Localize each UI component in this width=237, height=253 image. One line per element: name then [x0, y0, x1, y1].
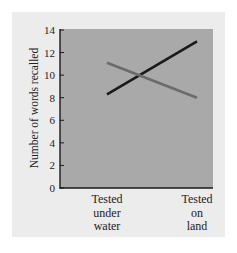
y-tick-label: 12: [44, 47, 55, 59]
x-category-label: Tested: [91, 192, 122, 206]
y-tick-label: 6: [50, 114, 56, 126]
plot-area: [60, 29, 213, 188]
x-category-label: land: [187, 219, 208, 233]
y-tick-label: 8: [50, 92, 56, 104]
x-category-label: on: [191, 206, 203, 220]
x-category-label: Tested: [181, 192, 212, 206]
y-tick-label: 4: [50, 137, 56, 149]
line-chart: 02468101214 Number of words recalled Tes…: [0, 0, 237, 253]
y-tick-label: 10: [44, 69, 56, 81]
y-tick-label: 0: [50, 182, 56, 194]
y-tick-label: 14: [44, 24, 56, 36]
y-axis-title: Number of words recalled: [28, 48, 40, 169]
x-category-label: under: [93, 206, 120, 220]
x-category-label: water: [94, 219, 121, 233]
y-tick-label: 2: [50, 159, 56, 171]
x-category-labels: TestedunderwaterTestedonland: [91, 192, 212, 233]
